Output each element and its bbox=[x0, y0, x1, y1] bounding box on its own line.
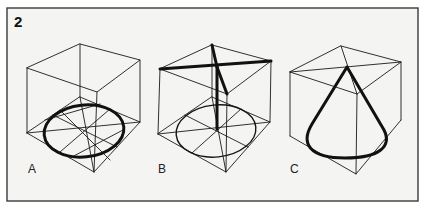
figure-number: 2 bbox=[14, 13, 22, 30]
panel-a-label: A bbox=[28, 162, 36, 176]
panel-b-label: B bbox=[158, 162, 166, 176]
figure-diagram: 2 A bbox=[0, 0, 426, 211]
panel-c-label: C bbox=[290, 162, 299, 176]
